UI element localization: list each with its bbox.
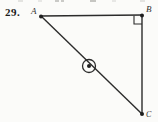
textbook-figure: 29. A B C — [0, 0, 158, 122]
vertex-dot-C — [140, 112, 144, 116]
segment-AB — [41, 15, 142, 16]
vertex-label-A: A — [30, 6, 37, 16]
triangle-diagram: A B C — [0, 0, 158, 122]
vertex-label-B: B — [146, 4, 152, 14]
vertex-dot-A — [39, 15, 43, 19]
segment-AC — [41, 16, 142, 114]
vertex-dot-B — [140, 14, 144, 18]
circle-center-dot — [87, 64, 91, 68]
vertex-label-C: C — [146, 110, 152, 119]
